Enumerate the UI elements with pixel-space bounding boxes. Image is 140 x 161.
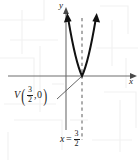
- y-axis: [63, 7, 69, 130]
- vertex-leader-line: [57, 77, 82, 100]
- symmetry-denominator: 2: [74, 140, 80, 148]
- symmetry-fraction: 3 2: [74, 130, 80, 149]
- close-paren: ): [43, 88, 47, 104]
- x-axis-label: x: [129, 77, 133, 86]
- vertex-x-numerator: 3: [27, 86, 33, 94]
- open-paren: (: [21, 88, 25, 104]
- symmetry-numerator: 3: [74, 130, 80, 138]
- parabola-curve: [68, 20, 95, 76]
- vertex-x-fraction: 3 2: [27, 86, 33, 105]
- axis-of-symmetry-annotation: x = 3 2: [60, 130, 80, 149]
- vertex-annotation: V ( 3 2 , 0 ): [14, 86, 48, 105]
- vertex-y-value: 0: [37, 90, 42, 100]
- symmetry-variable: x: [60, 134, 64, 144]
- vertex-x-denominator: 2: [27, 96, 33, 104]
- x-axis: [8, 73, 137, 79]
- y-axis-label: y: [59, 1, 63, 10]
- parabola-figure: y x V ( 3 2 , 0 ) x = 3 2: [0, 0, 140, 161]
- equals-sign: =: [66, 134, 72, 144]
- vertex-letter: V: [14, 90, 20, 100]
